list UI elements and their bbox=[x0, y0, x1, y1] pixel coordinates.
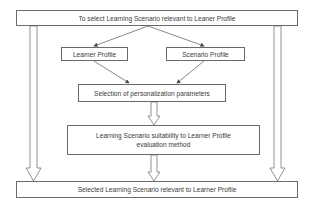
evaluation-box: Learning Scenario suitability to Learner… bbox=[67, 125, 260, 155]
right-hollow-arrow bbox=[270, 26, 285, 181]
learner-profile-label: Learner Profile bbox=[73, 50, 116, 59]
learner-profile-box: Learner Profile bbox=[61, 47, 128, 61]
evaluation-to-bottom-arrow bbox=[148, 155, 160, 181]
selection-box: Selection of personalization parameters bbox=[78, 84, 226, 102]
selection-label: Selection of personalization parameters bbox=[94, 89, 210, 98]
left-hollow-arrow bbox=[26, 26, 41, 181]
bottom-result-label: Selected Learning Scenario relevant to L… bbox=[78, 185, 237, 194]
top-goal-box: To select Learning Scenario relevant to … bbox=[16, 10, 298, 26]
top-goal-label: To select Learning Scenario relevant to … bbox=[79, 14, 236, 23]
bottom-result-box: Selected Learning Scenario relevant to L… bbox=[16, 181, 298, 198]
selection-to-evaluation-arrow bbox=[148, 102, 160, 125]
evaluation-label: Learning Scenario suitability to Learner… bbox=[86, 131, 241, 149]
diagram-connectors bbox=[0, 0, 315, 209]
scenario-profile-label: Scenario Profile bbox=[182, 50, 229, 59]
scenario-profile-box: Scenario Profile bbox=[166, 47, 245, 61]
